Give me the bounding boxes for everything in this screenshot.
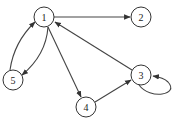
node-label: 1 — [42, 12, 47, 23]
edge-3-to-1 — [55, 22, 132, 70]
edge-5-to-1 — [10, 22, 35, 70]
node-label: 5 — [11, 75, 16, 86]
node-label: 4 — [84, 102, 89, 113]
node-5: 5 — [3, 70, 23, 90]
node-4: 4 — [76, 97, 96, 117]
node-1: 1 — [34, 7, 54, 27]
node-3: 3 — [131, 65, 151, 85]
edge-1-to-4 — [48, 27, 81, 97]
edge-1-to-5 — [22, 27, 48, 75]
node-label: 2 — [139, 12, 144, 23]
edge-4-to-3 — [95, 80, 131, 102]
directed-graph: 1 2 3 4 5 — [0, 0, 178, 123]
node-label: 3 — [139, 70, 144, 81]
node-2: 2 — [131, 7, 151, 27]
